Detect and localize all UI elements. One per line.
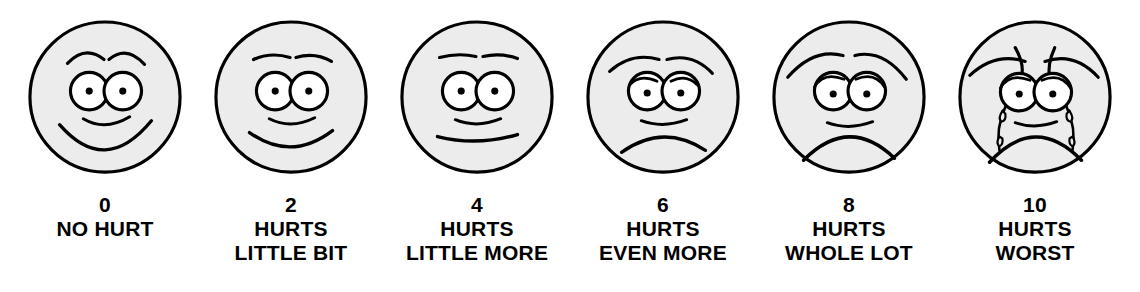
face-score-0: 0 [56, 193, 153, 217]
face-label-line1-10: HURTS [995, 217, 1074, 241]
face-label-line1-8: HURTS [785, 217, 913, 241]
face-caption-2: 2 HURTS LITTLE BIT [235, 193, 348, 264]
face-score-4: 4 [406, 193, 548, 217]
face-label-line2-10: WORST [995, 241, 1074, 265]
pain-rating-scale: 0 NO HURT 2 [0, 0, 1140, 292]
face-caption-0: 0 NO HURT [56, 193, 153, 241]
face-score-10: 10 [995, 193, 1074, 217]
face-option-4[interactable]: 4 HURTS LITTLE MORE [398, 12, 556, 264]
face-label-line2-8: WHOLE LOT [785, 241, 913, 265]
face-option-8[interactable]: 8 HURTS WHOLE LOT [770, 12, 928, 264]
face-hurts-little-more-icon [398, 12, 556, 184]
face-option-10[interactable]: 10 HURTS WORST [956, 12, 1114, 264]
face-hurts-little-bit-icon [212, 12, 370, 184]
face-caption-6: 6 HURTS EVEN MORE [599, 193, 727, 264]
face-caption-10: 10 HURTS WORST [995, 193, 1074, 264]
face-hurts-even-more-icon [584, 12, 742, 184]
face-label-line1-0: NO HURT [56, 217, 153, 241]
face-caption-4: 4 HURTS LITTLE MORE [406, 193, 548, 264]
face-score-8: 8 [785, 193, 913, 217]
face-hurts-whole-lot-icon [770, 12, 928, 184]
face-score-2: 2 [235, 193, 348, 217]
face-no-hurt-icon [26, 12, 184, 184]
faces-row: 0 NO HURT 2 [0, 0, 1140, 292]
face-label-line1-4: HURTS [406, 217, 548, 241]
face-score-6: 6 [599, 193, 727, 217]
face-label-line2-6: EVEN MORE [599, 241, 727, 265]
face-label-line1-6: HURTS [599, 217, 727, 241]
face-label-line2-2: LITTLE BIT [235, 241, 348, 265]
face-label-line2-4: LITTLE MORE [406, 241, 548, 265]
face-caption-8: 8 HURTS WHOLE LOT [785, 193, 913, 264]
face-option-6[interactable]: 6 HURTS EVEN MORE [584, 12, 742, 264]
face-label-line1-2: HURTS [235, 217, 348, 241]
face-option-0[interactable]: 0 NO HURT [26, 12, 184, 241]
face-option-2[interactable]: 2 HURTS LITTLE BIT [212, 12, 370, 264]
face-hurts-worst-icon [956, 12, 1114, 184]
